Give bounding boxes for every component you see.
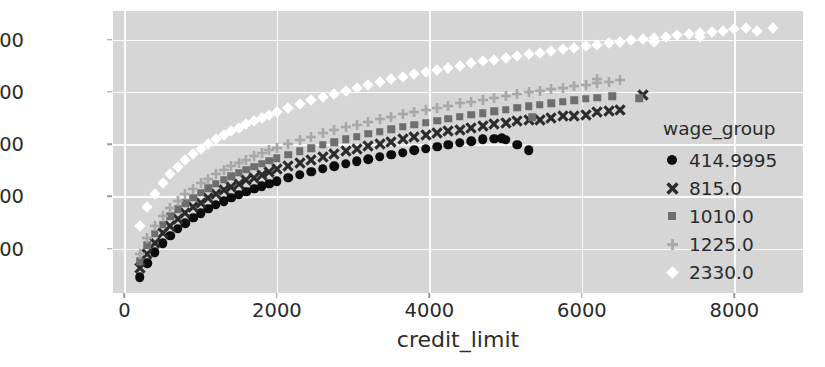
- data-point: [445, 115, 453, 123]
- y-tick-mark: [107, 248, 112, 250]
- legend-item[interactable]: 815.0: [655, 174, 820, 202]
- data-point: [683, 29, 694, 40]
- data-point: [465, 96, 477, 108]
- data-point: [557, 110, 569, 122]
- data-point: [479, 109, 487, 117]
- data-point: [729, 24, 740, 35]
- legend-label: 414.9995: [689, 150, 777, 171]
- x-tick-label: 6000: [512, 299, 652, 322]
- data-point: [408, 106, 420, 118]
- data-point: [342, 135, 350, 143]
- data-point: [568, 80, 580, 92]
- x-tick-mark: [276, 293, 278, 298]
- data-point: [431, 127, 443, 139]
- data-point: [478, 135, 488, 145]
- data-point: [141, 232, 153, 244]
- data-point: [454, 97, 466, 109]
- data-point: [443, 62, 454, 73]
- x-axis-label: credit_limit: [397, 327, 519, 352]
- data-point: [442, 100, 454, 112]
- data-point: [609, 92, 617, 100]
- data-point: [523, 86, 535, 98]
- data-point: [593, 94, 601, 102]
- legend-entries: 414.9995815.01010.01225.02330.0: [655, 146, 820, 286]
- y-tick-mark: [107, 196, 112, 198]
- legend-label: 815.0: [689, 178, 742, 199]
- data-point: [284, 173, 294, 183]
- data-point: [305, 154, 317, 166]
- data-point: [454, 60, 465, 71]
- legend-item[interactable]: 1225.0: [655, 230, 820, 258]
- data-point: [362, 116, 374, 128]
- data-point: [580, 79, 592, 91]
- data-point: [569, 42, 580, 53]
- y-tick-label: 6000: [0, 28, 24, 51]
- data-point: [477, 120, 489, 132]
- data-point: [502, 106, 510, 114]
- data-point: [706, 26, 717, 37]
- data-point: [614, 36, 625, 47]
- x-tick-label: 0: [54, 299, 194, 322]
- data-point: [626, 35, 637, 46]
- data-point: [328, 148, 340, 160]
- legend-item[interactable]: 2330.0: [655, 258, 820, 286]
- data-point: [283, 102, 294, 113]
- data-point: [330, 138, 338, 146]
- data-point: [513, 104, 521, 112]
- data-point: [752, 26, 763, 37]
- data-point: [351, 143, 363, 155]
- data-point: [340, 121, 352, 133]
- data-point: [340, 85, 351, 96]
- data-point: [497, 133, 507, 143]
- data-point: [545, 83, 557, 95]
- data-point: [397, 108, 409, 120]
- data-point: [353, 133, 361, 141]
- data-point: [614, 74, 626, 86]
- data-point: [454, 124, 466, 136]
- data-point: [637, 34, 648, 45]
- legend-item[interactable]: 1010.0: [655, 202, 820, 230]
- data-point: [296, 147, 304, 155]
- legend-marker-circle-icon: [655, 146, 689, 174]
- data-point: [362, 140, 374, 152]
- data-point: [557, 43, 568, 54]
- data-point: [282, 138, 294, 150]
- legend-marker-square-icon: [655, 202, 689, 230]
- data-point: [511, 88, 523, 100]
- data-point: [512, 140, 522, 150]
- data-point: [717, 25, 728, 36]
- data-point: [422, 119, 430, 127]
- y-tick-label: 2000: [0, 237, 24, 260]
- y-tick-label: 3000: [0, 185, 24, 208]
- data-point: [466, 58, 477, 69]
- data-point: [500, 117, 512, 129]
- data-point: [364, 154, 374, 164]
- data-point: [767, 22, 778, 33]
- data-point: [511, 50, 522, 61]
- data-point: [489, 54, 500, 65]
- data-point: [431, 102, 443, 114]
- data-point: [557, 82, 569, 94]
- x-tick-mark: [581, 293, 583, 298]
- data-point: [548, 99, 556, 107]
- gridline-vertical: [582, 11, 583, 293]
- legend-item[interactable]: 414.9995: [655, 146, 820, 174]
- data-point: [490, 108, 498, 116]
- legend-marker-x-icon: [655, 174, 689, 202]
- data-point: [421, 144, 431, 154]
- data-point: [282, 160, 294, 172]
- data-point: [525, 103, 533, 111]
- data-point: [134, 248, 146, 260]
- data-point: [157, 178, 168, 189]
- x-tick-label: 2000: [207, 299, 347, 322]
- data-point: [408, 131, 420, 143]
- data-point: [352, 157, 362, 167]
- data-point: [546, 45, 557, 56]
- data-point: [351, 119, 363, 131]
- x-tick-mark: [429, 293, 431, 298]
- data-point: [397, 133, 409, 145]
- data-point: [385, 136, 397, 148]
- data-point: [500, 52, 511, 63]
- data-point: [442, 125, 454, 137]
- data-point: [294, 157, 306, 169]
